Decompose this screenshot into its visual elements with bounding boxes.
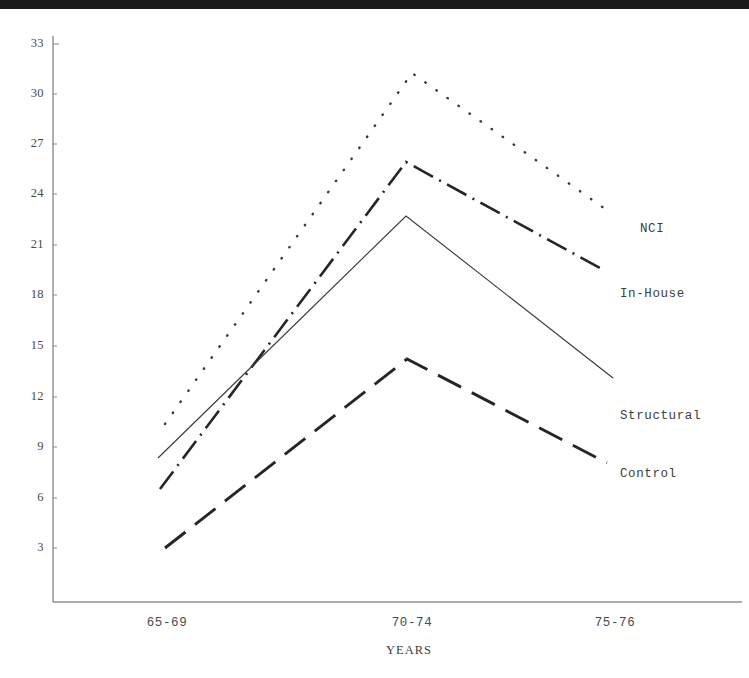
line-chart-canvas [0,0,749,678]
series-line-in-house [160,162,600,489]
y-tick-label: 3 [18,540,44,555]
y-tick-label: 21 [18,237,44,252]
y-tick-label: 24 [18,186,44,201]
x-tick-label-75-76: 75-76 [570,616,660,630]
series-label-in-house: In-House [620,287,685,301]
chart-figure: 33 30 27 24 21 18 15 12 9 6 3 65-69 70-7… [0,0,749,678]
y-tick-label: 9 [18,439,44,454]
series-line-control [165,359,607,548]
series-line-structural [158,216,613,458]
series-label-nci: NCI [640,222,664,236]
y-tick-label: 12 [18,389,44,404]
x-tick-label-70-74: 70-74 [367,616,457,630]
y-tick-label: 15 [18,338,44,353]
x-tick-label-65-69: 65-69 [122,616,212,630]
x-axis-title: YEARS [349,643,469,658]
series-label-structural: Structural [620,409,701,423]
series-line-nci [165,73,611,424]
y-axis-tick-marks [53,44,59,548]
y-tick-label: 6 [18,490,44,505]
y-tick-label: 33 [18,36,44,51]
series-label-control: Control [620,467,677,481]
y-tick-label: 18 [18,287,44,302]
bottom-margin [0,674,749,678]
y-tick-label: 27 [18,136,44,151]
y-tick-label: 30 [18,86,44,101]
